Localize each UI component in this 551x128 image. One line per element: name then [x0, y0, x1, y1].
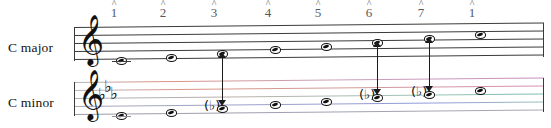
- scale-degree-number: 7: [410, 7, 432, 19]
- staff-c-major: [74, 27, 544, 61]
- barline-end: [543, 78, 544, 112]
- arrowhead-down-icon: [425, 86, 433, 92]
- scale-degree-7: ^ 7: [410, 1, 432, 19]
- staff-line: [74, 101, 544, 107]
- arrow-degree-6: [371, 41, 383, 95]
- note-c-major-2: [166, 54, 177, 62]
- note-c-major-4: [270, 46, 281, 54]
- treble-clef-icon-c-major: 𝄞: [78, 17, 104, 61]
- scale-degree-2: ^ 2: [152, 1, 174, 19]
- staff-line: [74, 85, 544, 91]
- key-signature-flat-2: ♭: [98, 86, 106, 103]
- staff-line: [74, 54, 544, 60]
- barline-end: [543, 23, 544, 57]
- note-c-minor-7: [424, 91, 435, 99]
- arrow-degree-3: [216, 52, 228, 106]
- barline-start: [74, 27, 75, 61]
- scale-degree-1b: ^ 1: [461, 1, 483, 19]
- scale-degree-number: 1: [103, 7, 125, 19]
- note-c-minor-4: [270, 101, 281, 109]
- music-diagram: ^ 1 ^ 2 ^ 3 ^ 4 ^ 5 ^ 6 ^ 7 ^ 1: [0, 0, 551, 128]
- staff-c-minor: [74, 82, 544, 116]
- scale-degree-6: ^ 6: [358, 1, 380, 19]
- scale-degree-number: 2: [152, 7, 174, 19]
- staff-label-c-minor: C minor: [8, 95, 54, 111]
- arrow-shaft: [429, 42, 430, 87]
- ledger-line: [112, 61, 131, 62]
- staff-line: [74, 93, 544, 99]
- note-c-minor-2: [166, 109, 177, 117]
- scale-degree-number: 3: [203, 7, 225, 19]
- staff-line: [74, 30, 544, 36]
- scale-degree-number: 5: [307, 7, 329, 19]
- staff-line: [74, 109, 544, 115]
- note-c-minor-3: [217, 105, 228, 113]
- scale-degree-number: 4: [257, 7, 279, 19]
- note-c-major-8: [475, 31, 486, 39]
- staff-line: [74, 22, 544, 28]
- staff-label-c-major: C major: [8, 40, 53, 56]
- arrow-shaft: [377, 46, 378, 90]
- scale-degree-1a: ^ 1: [103, 1, 125, 19]
- arrow-degree-7: [423, 37, 435, 92]
- staff-lines-c-major: [74, 27, 544, 61]
- arrowhead-down-icon: [218, 100, 226, 106]
- scale-degree-number: 6: [358, 7, 380, 19]
- staff-line: [74, 46, 544, 52]
- arrow-shaft: [222, 57, 223, 101]
- staff-line: [74, 38, 544, 44]
- note-c-minor-8: [475, 87, 486, 95]
- arrowhead-down-icon: [373, 89, 381, 95]
- scale-degree-3: ^ 3: [203, 1, 225, 19]
- note-c-minor-6: [372, 94, 383, 102]
- note-c-major-5: [321, 43, 332, 51]
- ledger-line: [112, 116, 131, 117]
- scale-degree-4: ^ 4: [257, 1, 279, 19]
- barline-start: [74, 82, 75, 116]
- staff-lines-c-minor: [74, 82, 544, 116]
- note-c-minor-5: [321, 98, 332, 106]
- scale-degree-number: 1: [461, 7, 483, 19]
- key-signature-flat-3: ♭: [110, 85, 118, 102]
- staff-line: [74, 77, 544, 83]
- scale-degree-5: ^ 5: [307, 1, 329, 19]
